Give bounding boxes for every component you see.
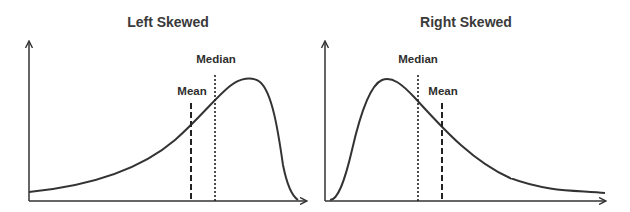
left-mean-label: Mean <box>177 85 206 97</box>
skew-diagram: Left Skewed Mean Median Right Skewed Med… <box>0 0 630 212</box>
left-median-label: Median <box>196 53 236 65</box>
right-median-label: Median <box>398 53 438 65</box>
left-chart-title: Left Skewed <box>127 14 209 30</box>
right-distribution-curve <box>330 79 605 200</box>
left-distribution-curve <box>29 79 298 200</box>
right-chart-title: Right Skewed <box>420 14 512 30</box>
left-skewed-chart: Left Skewed Mean Median <box>29 14 306 201</box>
right-mean-label: Mean <box>428 85 457 97</box>
right-skewed-chart: Right Skewed Median Mean <box>325 14 605 201</box>
